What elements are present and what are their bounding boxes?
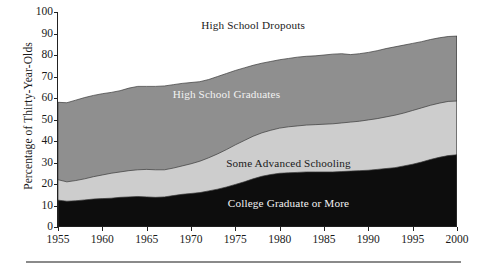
x-tick-mark bbox=[235, 227, 236, 231]
x-tick-label: 1985 bbox=[313, 234, 336, 246]
x-tick-label: 1995 bbox=[401, 234, 424, 246]
y-tick-label: 100 bbox=[36, 6, 53, 18]
y-tick-mark bbox=[54, 12, 58, 13]
y-tick-label: 0 bbox=[47, 221, 53, 233]
x-tick-mark bbox=[280, 227, 281, 231]
x-tick-label: 1955 bbox=[47, 234, 70, 246]
y-tick-mark bbox=[54, 77, 58, 78]
x-tick-label: 1975 bbox=[224, 234, 247, 246]
area-label-some-advanced-schooling: Some Advanced Schooling bbox=[226, 157, 351, 169]
x-tick-label: 1965 bbox=[135, 234, 158, 246]
x-tick-label: 1970 bbox=[180, 234, 203, 246]
y-tick-label: 30 bbox=[42, 157, 54, 169]
area-label-high-school-dropouts: High School Dropouts bbox=[201, 19, 305, 31]
y-tick-label: 80 bbox=[42, 49, 54, 61]
y-tick-mark bbox=[54, 120, 58, 121]
x-tick-mark bbox=[58, 227, 59, 231]
y-tick-label: 90 bbox=[42, 28, 54, 40]
y-tick-label: 10 bbox=[42, 200, 54, 212]
stacked-area-layers bbox=[58, 12, 457, 227]
area-chart-svg bbox=[58, 12, 457, 227]
x-tick-mark bbox=[191, 227, 192, 231]
y-tick-mark bbox=[54, 184, 58, 185]
y-axis-title: Percentage of Thirty-Year-Olds bbox=[22, 11, 34, 221]
y-tick-label: 60 bbox=[42, 92, 54, 104]
x-tick-label: 1980 bbox=[268, 234, 291, 246]
x-tick-mark bbox=[147, 227, 148, 231]
footer-rule bbox=[26, 261, 461, 263]
x-tick-label: 2000 bbox=[446, 234, 469, 246]
area-label-high-school-graduates: High School Graduates bbox=[173, 88, 281, 100]
x-tick-mark bbox=[102, 227, 103, 231]
y-tick-mark bbox=[54, 206, 58, 207]
y-tick-label: 20 bbox=[42, 178, 54, 190]
area-label-college-graduate-or-more: College Graduate or More bbox=[228, 197, 349, 209]
y-tick-mark bbox=[54, 98, 58, 99]
chart-figure: Percentage of Thirty-Year-Olds 010203040… bbox=[0, 0, 481, 267]
y-tick-mark bbox=[54, 163, 58, 164]
y-tick-mark bbox=[54, 55, 58, 56]
plot-area: 0102030405060708090100 19551960196519701… bbox=[58, 12, 457, 227]
y-tick-label: 40 bbox=[42, 135, 54, 147]
y-tick-mark bbox=[54, 34, 58, 35]
x-tick-mark bbox=[324, 227, 325, 231]
x-tick-mark bbox=[368, 227, 369, 231]
x-tick-label: 1990 bbox=[357, 234, 380, 246]
x-tick-label: 1960 bbox=[91, 234, 114, 246]
x-tick-mark bbox=[413, 227, 414, 231]
y-tick-mark bbox=[54, 141, 58, 142]
y-tick-label: 70 bbox=[42, 71, 54, 83]
x-tick-mark bbox=[457, 227, 458, 231]
y-tick-label: 50 bbox=[42, 114, 54, 126]
